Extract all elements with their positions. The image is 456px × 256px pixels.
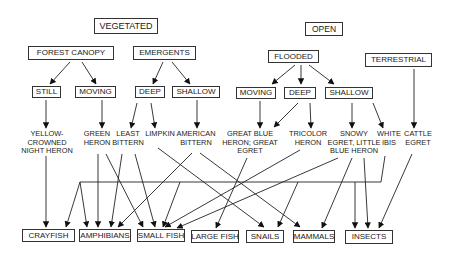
- terrestrial: TERRESTRIAL: [365, 53, 432, 67]
- arrow-emergents-shallow: [172, 62, 190, 84]
- open-moving: MOVING: [236, 87, 276, 99]
- cattle-egret: CATTLE EGRET: [404, 130, 432, 147]
- large-fish: LARGE FISH: [191, 230, 239, 243]
- american-bittern: AMERICAN BITTERN: [176, 130, 215, 147]
- food-web-connectors: [0, 0, 456, 256]
- snowy-egret-little-blue-heron: SNOWY EGRET, LITTLE BLUE HERON: [328, 130, 381, 156]
- veg-deep: DEEP: [135, 86, 165, 98]
- open-habitat: OPEN: [305, 22, 343, 36]
- amphibians: AMPHIBIANS: [79, 229, 131, 242]
- line-bus-amphibians: [80, 182, 87, 227]
- limpkin: LIMPKIN: [145, 130, 175, 139]
- line-tricolor-small-fish: [165, 150, 300, 227]
- arrow-forest-canopy-moving: [82, 62, 96, 84]
- arrow-open-shallow-white-ibis: [373, 103, 383, 128]
- open-deep: DEEP: [284, 87, 316, 99]
- emergents: EMERGENTS: [133, 46, 196, 60]
- arrow-forest-canopy-still: [50, 62, 70, 84]
- forest-canopy: FOREST CANOPY: [28, 46, 114, 60]
- least-bittern: LEAST BITTERN: [112, 130, 144, 147]
- veg-still: STILL: [32, 86, 61, 98]
- insects: INSECTS: [345, 230, 393, 244]
- line-snowy-mammals: [322, 158, 352, 228]
- veg-moving: MOVING: [75, 86, 116, 98]
- vegetated-habitat: VEGETATED: [94, 18, 158, 34]
- arrow-deep-limpkin: [151, 103, 155, 128]
- arrow-open-deep-tricolor: [310, 103, 311, 128]
- green-heron: GREEN HERON: [84, 130, 111, 147]
- line-least-bittern-small-fish: [135, 154, 155, 227]
- white-ibis: WHITE IBIS: [377, 130, 401, 147]
- yellow-crowned-night-heron: YELLOW- CROWNED NIGHT HERON: [21, 130, 73, 156]
- arrow-flooded-shallow: [309, 65, 334, 84]
- line-bus-crayfish: [66, 182, 80, 227]
- open-shallow: SHALLOW: [325, 87, 373, 99]
- arrow-open-deep-great-blue: [274, 103, 298, 127]
- flooded: FLOODED: [268, 50, 319, 63]
- line-least-bittern-amphibians: [111, 154, 122, 227]
- crayfish: CRAYFISH: [22, 229, 75, 242]
- small-fish: SMALL FISH: [137, 229, 185, 242]
- line-green-heron-small-fish: [106, 154, 143, 227]
- line-snowy-insects: [364, 158, 368, 228]
- great-blue-heron-great-egret: GREAT BLUE HERON; GREAT EGRET: [222, 130, 278, 156]
- mammals: MAMMALS: [293, 230, 335, 243]
- tricolor-heron: TRICOLOR HERON: [289, 130, 327, 147]
- arrow-emergents-deep: [153, 62, 163, 84]
- snails: SNAILS: [246, 230, 284, 243]
- line-limpkin-snails: [158, 148, 264, 227]
- arrow-deep-least-bittern: [131, 103, 137, 128]
- line-white-ibis-bus: [80, 156, 385, 182]
- veg-shallow: SHALLOW: [172, 86, 220, 98]
- line-snowy-small-fish: [177, 158, 338, 228]
- arrow-flooded-moving: [272, 65, 295, 84]
- line-american-bittern-amphibians: [118, 153, 192, 227]
- line-bus-snails: [278, 182, 298, 227]
